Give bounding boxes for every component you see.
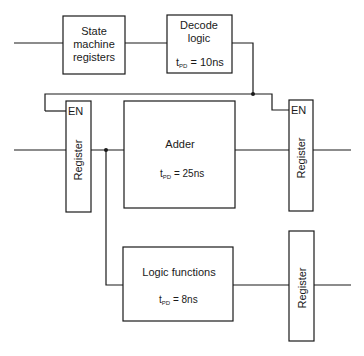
register-left-label: Register: [72, 139, 84, 180]
adder-block: [124, 101, 235, 208]
junction-dot-enable: [251, 92, 255, 96]
logic-functions-label: Logic functions: [142, 266, 216, 278]
decode-label-1: Decode: [180, 19, 218, 31]
register-right-label: Register: [295, 137, 307, 178]
timing-block-diagram: State machine registers Decode logic tPD…: [0, 0, 364, 356]
diagram-svg: State machine registers Decode logic tPD…: [0, 0, 364, 356]
state-machine-label-2: machine: [73, 38, 115, 50]
state-machine-label-3: registers: [73, 51, 116, 63]
wire-branch-logic: [106, 150, 123, 285]
logic-functions-block: [123, 247, 233, 321]
adder-label: Adder: [165, 138, 195, 150]
register-left-enable: EN: [68, 105, 83, 117]
decode-tpd: tPD = 10ns: [176, 56, 224, 69]
junction-dot-data: [104, 148, 108, 152]
adder-tpd: tPD = 25ns: [160, 168, 204, 180]
wire-decode-out: [232, 43, 253, 94]
register-right-enable: EN: [291, 104, 306, 116]
register-bottom-label: Register: [296, 267, 308, 308]
logic-functions-tpd: tPD = 8ns: [159, 294, 198, 306]
decode-label-2: logic: [188, 32, 211, 44]
state-machine-label-1: State: [81, 25, 107, 37]
